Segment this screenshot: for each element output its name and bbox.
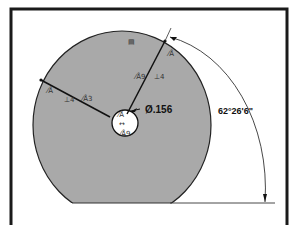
center-arrows-icon: ↔ [119, 120, 125, 128]
center-coincident-icon: ⁄Å [116, 110, 124, 119]
left-line-perpendicular-icon: ⊥4 [64, 96, 75, 104]
left-outer-coincident-icon: ⁄Å [45, 86, 53, 95]
right-line-coincident-icon: ⁄Å9 [133, 72, 145, 81]
left-line-coincident-icon: ⁄Å3 [80, 94, 92, 103]
sketch-canvas[interactable]: 62°26'6" Ø.156 ▤ ⁄Å ⁄Å9 ⊥4 ⁄Å ⊥4 ⁄Å3 ⁄Å … [0, 0, 297, 225]
left-line-endpoint[interactable] [39, 78, 42, 81]
top-relation-icon: ▤ [128, 38, 135, 46]
right-line-perpendicular-icon: ⊥4 [154, 73, 165, 81]
arc-coincident-icon: ⁄Å [166, 49, 174, 58]
hole-bottom-coincident-icon: ⁄Å9 [118, 129, 130, 138]
diameter-dimension-label: Ø.156 [145, 104, 173, 115]
angle-dimension-label: 62°26'6" [218, 106, 253, 116]
